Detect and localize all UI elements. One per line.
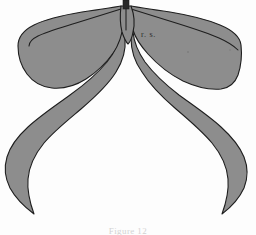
figure-caption: Figure 12 — [0, 226, 256, 235]
scan-speck — [187, 51, 189, 53]
figure-page: r. s. Figure 12 — [0, 0, 256, 235]
knot-stem-icon — [123, 0, 129, 9]
scan-speck — [229, 49, 231, 51]
label-rs: r. s. — [141, 30, 156, 39]
figure-illustration: r. s. — [0, 0, 256, 235]
